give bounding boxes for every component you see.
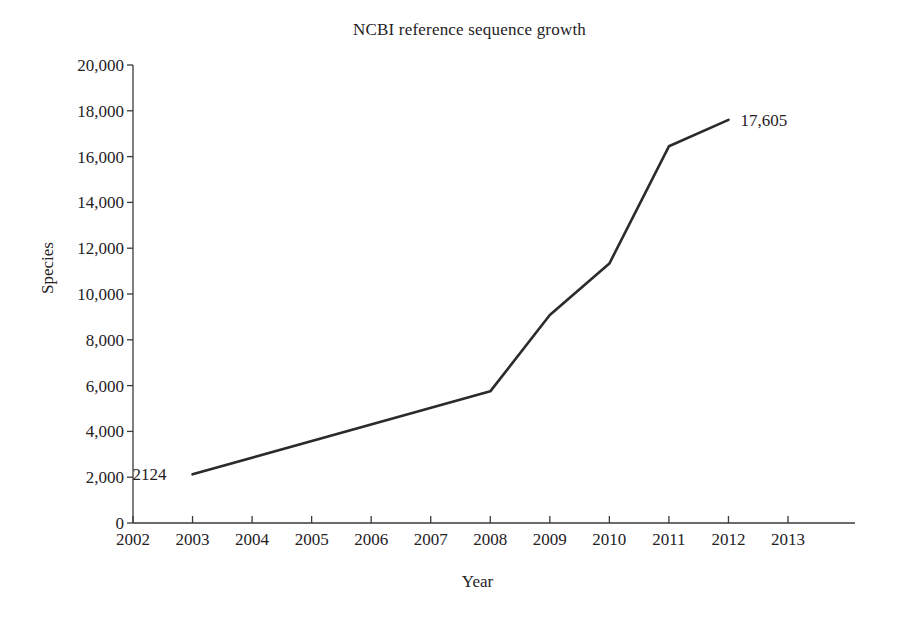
data-label: 2124 (133, 466, 167, 483)
chart-figure: NCBI reference sequence growth Species Y… (0, 0, 899, 618)
data-label: 17,605 (740, 111, 787, 128)
series-line (193, 120, 729, 475)
chart-plot (0, 0, 899, 618)
data-series-line (193, 120, 729, 475)
chart-axes (127, 65, 855, 523)
